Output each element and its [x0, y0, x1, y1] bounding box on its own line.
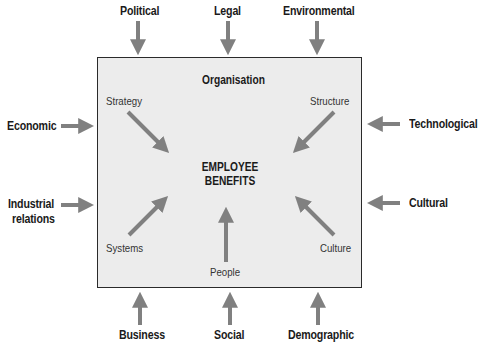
label-structure: Structure	[310, 95, 349, 107]
label-legal: Legal	[214, 4, 241, 18]
label-demographic: Demographic	[288, 328, 354, 342]
label-political: Political	[120, 4, 159, 18]
label-social: Social	[214, 328, 244, 342]
organisation-title: Organisation	[202, 73, 265, 87]
arrow-culture	[300, 201, 334, 235]
label-technological: Technological	[409, 117, 477, 131]
label-environmental: Environmental	[283, 4, 355, 18]
employee-benefits-label: EMPLOYEE BENEFITS	[179, 160, 281, 188]
arrow-systems	[129, 201, 163, 235]
diagram-canvas: Organisation EMPLOYEE BENEFITS Strategy …	[0, 0, 483, 348]
label-cultural: Cultural	[409, 196, 448, 210]
label-culture: Culture	[320, 242, 351, 254]
label-industrial: Industrial	[8, 197, 54, 211]
label-business: Business	[119, 328, 165, 342]
center-label-line2: BENEFITS	[179, 174, 281, 188]
label-systems: Systems	[106, 242, 143, 254]
label-relations: relations	[12, 212, 55, 226]
arrow-structure	[298, 112, 334, 148]
arrow-strategy	[128, 112, 164, 148]
center-label-line1: EMPLOYEE	[179, 160, 281, 174]
label-strategy: Strategy	[106, 95, 142, 107]
label-people: People	[210, 266, 240, 278]
label-economic: Economic	[7, 119, 56, 133]
